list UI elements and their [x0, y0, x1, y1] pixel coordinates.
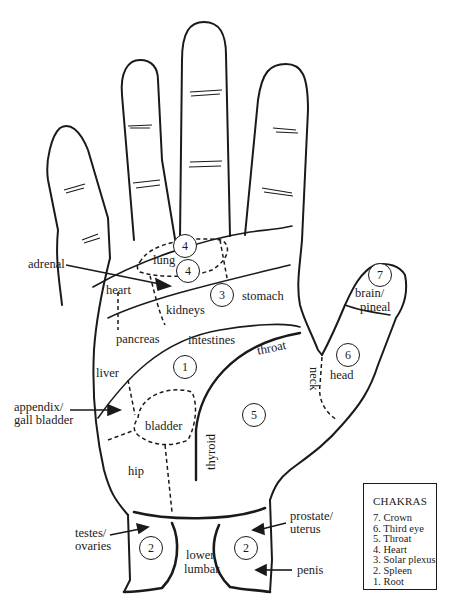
label-head: head: [330, 369, 354, 382]
callout-testes-line2: ovaries: [75, 540, 111, 553]
label-brain-line2: pineal: [360, 301, 391, 314]
testes-arrowhead: [137, 524, 148, 533]
chakra-marker-2-right: 2: [234, 536, 258, 560]
legend-title: CHAKRAS: [364, 495, 436, 507]
wrist-right-edge: [270, 500, 272, 592]
legend-list: 7. Crown 6. Third eye 5. Throat 4. Heart…: [373, 513, 436, 587]
appendix-arrowhead: [108, 405, 120, 415]
label-neck: neck: [307, 367, 320, 391]
chakra-marker-4-upper: 4: [173, 234, 197, 258]
prostate-arrowhead: [253, 524, 264, 534]
adrenal-arrowhead: [156, 279, 170, 290]
legend-item: 1. Root: [373, 577, 436, 588]
chakra-marker-5: 5: [242, 403, 266, 427]
label-heart: heart: [106, 284, 131, 297]
middle-finger-outline: [180, 22, 230, 238]
adrenal-arrow-line: [66, 265, 160, 284]
label-liver: liver: [96, 367, 119, 380]
bladder-dashed-ellipse: [134, 390, 195, 445]
wrist-left-edge: [124, 515, 130, 592]
little-finger-outline: [47, 126, 110, 305]
index-crease: [262, 128, 298, 196]
palm-right-edge: [298, 240, 322, 355]
index-finger-outline: [245, 64, 308, 240]
label-thyroid: thyroid: [205, 434, 218, 470]
chakras-legend: CHAKRAS 7. Crown 6. Third eye 5. Throat …: [363, 483, 437, 590]
chakra-marker-6: 6: [336, 343, 360, 367]
chakra-marker-7: 7: [368, 263, 392, 287]
callout-appendix-line2: gall bladder: [14, 414, 73, 427]
chakra-marker-4-heart: 4: [176, 259, 200, 283]
callout-prostate-line2: uterus: [290, 523, 321, 536]
prostate-arrow-line: [262, 523, 286, 529]
callout-adrenal: adrenal: [28, 258, 65, 271]
label-lung: lung: [153, 254, 175, 267]
chakra-marker-2-left: 2: [139, 536, 163, 560]
chakra-marker-1: 1: [173, 355, 197, 379]
testes-arrow-line: [110, 529, 140, 535]
label-kidneys: kidneys: [166, 304, 205, 317]
middle-crease: [189, 90, 222, 167]
ring-finger-outline: [122, 60, 176, 245]
label-pancreas: pancreas: [116, 333, 160, 346]
label-stomach: stomach: [242, 290, 284, 303]
label-hip: hip: [128, 465, 144, 478]
label-bladder: bladder: [145, 420, 182, 433]
legend-item: 2. Spleen: [373, 566, 436, 577]
penis-arrowhead: [256, 565, 266, 575]
neck-dashed-line: [320, 357, 337, 420]
wrist-crease: [134, 508, 265, 518]
label-intestines: intestines: [188, 334, 235, 347]
legend-item: 7. Crown: [373, 513, 436, 524]
chakra-marker-3: 3: [210, 283, 234, 307]
label-lower-line2: lumbar: [184, 563, 219, 576]
label-brain-line1: brain/: [355, 287, 384, 300]
label-lower-line1: lower: [186, 549, 214, 562]
ring-crease: [128, 125, 160, 188]
liver-divider: [128, 380, 135, 415]
callout-penis: penis: [297, 564, 323, 577]
